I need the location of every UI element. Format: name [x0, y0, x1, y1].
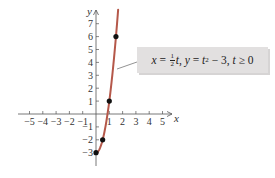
- point-marker: [93, 150, 98, 155]
- x-tick-label: −4: [37, 116, 48, 127]
- y-tick-label: 2: [88, 83, 93, 94]
- eq-equals: =: [157, 54, 169, 66]
- frac-numerator: 1: [171, 53, 175, 60]
- y-tick-label: 5: [88, 44, 93, 55]
- point-marker: [113, 34, 118, 39]
- eq-equals-2: =: [190, 54, 202, 66]
- x-tick-label: −5: [24, 116, 35, 127]
- x-tick-label: 2: [120, 116, 125, 127]
- y-tick-label: 7: [88, 18, 93, 29]
- axes: xy: [18, 5, 179, 166]
- equation-annotation-box: x = 1 2 t , y = t2 − 3, t ≥ 0: [137, 47, 268, 73]
- y-tick-label: −1: [82, 121, 93, 132]
- x-tick-label: 5: [160, 116, 165, 127]
- y-tick-label: 3: [88, 70, 93, 81]
- annotation-leader-line: [117, 62, 137, 69]
- eq-minus-three: − 3,: [209, 54, 233, 66]
- x-tick-label: 3: [133, 116, 138, 127]
- x-tick-label: −3: [51, 116, 62, 127]
- coordinate-plane: xy −5−4−3−2−112345−3−2−11234567: [0, 0, 275, 178]
- ticks: −5−4−3−2−112345−3−2−11234567: [24, 18, 165, 158]
- x-tick-label: −2: [64, 116, 75, 127]
- y-tick-label: 1: [88, 96, 93, 107]
- y-tick-label: 4: [88, 57, 93, 68]
- frac-denominator: 2: [171, 61, 175, 68]
- y-tick-label: −3: [82, 147, 93, 158]
- parametric-curve: [96, 10, 118, 153]
- x-tick-label: 4: [147, 116, 152, 127]
- point-marker: [107, 99, 112, 104]
- y-axis-label: y: [86, 5, 92, 17]
- curve-path: [96, 10, 118, 153]
- x-axis-label: x: [173, 112, 179, 124]
- point-marker: [100, 137, 105, 142]
- y-tick-label: −2: [82, 134, 93, 145]
- fraction-one-half: 1 2: [170, 53, 175, 68]
- eq-condition: ≥ 0: [236, 54, 254, 66]
- y-tick-label: 6: [88, 31, 93, 42]
